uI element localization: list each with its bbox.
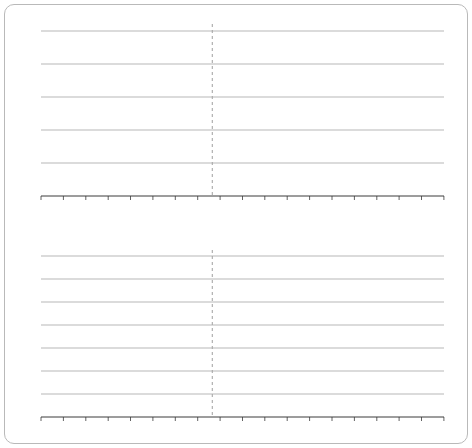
bottom-chart-gridlines [41,256,444,394]
bottom-chart-x-tickmarks [41,417,444,421]
charts-canvas [0,0,472,448]
figure-root [0,0,472,448]
top-chart-x-tickmarks [41,196,444,200]
top-chart-gridlines [41,31,444,163]
